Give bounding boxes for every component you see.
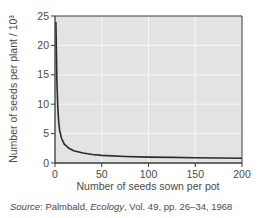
svg-text:200: 200 bbox=[233, 168, 251, 180]
svg-text:0: 0 bbox=[52, 168, 58, 180]
svg-text:150: 150 bbox=[186, 168, 204, 180]
svg-text:100: 100 bbox=[140, 168, 158, 180]
svg-text:0: 0 bbox=[43, 157, 49, 169]
x-axis-label: Number of seeds sown per pot bbox=[77, 180, 220, 192]
source-details: , Vol. 49, pp. 26–34, 1968 bbox=[124, 201, 232, 212]
svg-text:5: 5 bbox=[43, 127, 49, 139]
svg-text:50: 50 bbox=[96, 168, 108, 180]
source-author: : Palmbald, bbox=[40, 201, 90, 212]
x-axis-ticks: 050100150200 bbox=[52, 163, 251, 180]
y-axis-ticks: 0510152025 bbox=[37, 10, 55, 169]
chart: 0510152025 050100150200 Number of seeds … bbox=[0, 0, 260, 200]
svg-text:15: 15 bbox=[37, 68, 49, 80]
svg-text:20: 20 bbox=[37, 39, 49, 51]
svg-text:10: 10 bbox=[37, 98, 49, 110]
source-citation: Source: Palmbald, Ecology, Vol. 49, pp. … bbox=[10, 201, 232, 212]
y-axis-label: Number of seeds per plant / 10³ bbox=[7, 15, 19, 163]
source-prefix: Source bbox=[10, 201, 40, 212]
source-journal: Ecology bbox=[90, 201, 124, 212]
svg-text:25: 25 bbox=[37, 10, 49, 22]
